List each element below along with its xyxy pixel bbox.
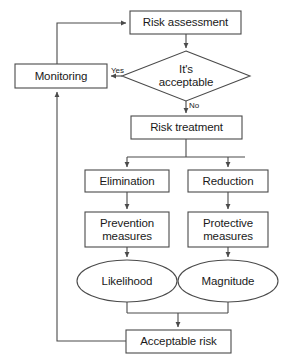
node-risk-treatment[interactable]: [131, 116, 242, 139]
flowchart-canvas: Risk assessment It's acceptable Monitori…: [0, 0, 292, 363]
node-elimination[interactable]: [85, 170, 169, 192]
node-acceptable-risk[interactable]: [126, 330, 231, 353]
node-magnitude[interactable]: [178, 260, 278, 302]
node-risk-assessment[interactable]: [130, 11, 241, 34]
node-protective-measures[interactable]: [188, 212, 268, 247]
edge-monitoring-to-assessment: [57, 23, 126, 64]
node-monitoring[interactable]: [15, 64, 107, 88]
node-reduction[interactable]: [188, 170, 268, 192]
node-prevention-measures[interactable]: [85, 212, 169, 247]
node-likelihood[interactable]: [77, 260, 177, 302]
node-its-acceptable[interactable]: [122, 51, 250, 101]
edge-label-no: No: [189, 101, 199, 110]
